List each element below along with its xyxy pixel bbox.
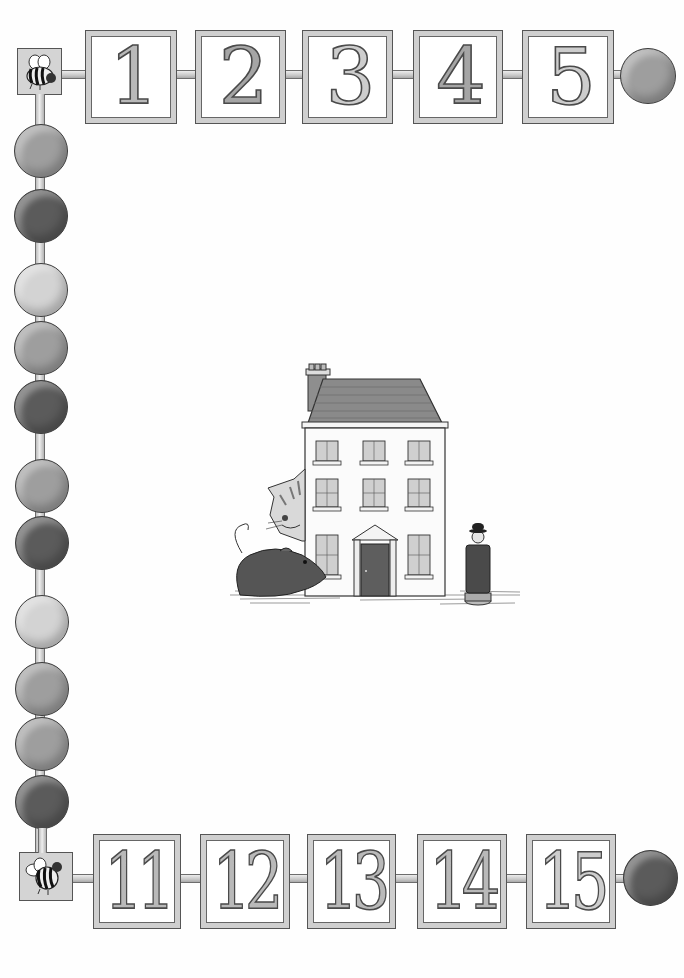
top-end-bead: [620, 48, 676, 104]
left-bead-7: [15, 516, 69, 570]
front-door: [352, 525, 398, 596]
number-tile-14: 14: [417, 834, 507, 929]
cat: [266, 469, 305, 541]
number-tile-13: 13: [307, 834, 396, 929]
left-bead-11: [15, 775, 69, 829]
left-bead-10: [15, 717, 69, 771]
numeral: 13: [319, 843, 384, 921]
number-tile-11: 11: [93, 834, 181, 929]
house-scene: [220, 355, 530, 620]
left-bead-4: [14, 321, 68, 375]
numeral: 3: [326, 38, 370, 116]
cornice: [302, 422, 448, 428]
numeral: 15: [539, 843, 604, 921]
numeral: 2: [219, 38, 263, 116]
left-bead-9: [15, 662, 69, 716]
roof: [308, 379, 442, 423]
numeral: 12: [213, 843, 278, 921]
bee-icon: [20, 853, 70, 899]
left-bead-5: [14, 380, 68, 434]
number-tile-15: 15: [526, 834, 616, 929]
numeral: 5: [546, 38, 590, 116]
number-tile-5: 5: [522, 30, 614, 124]
bottom-connector-rod: [38, 828, 47, 853]
left-bead-8: [15, 595, 69, 649]
illustration-page: 1 2 3 4 5 11: [0, 0, 684, 978]
man-figurine: [465, 523, 491, 605]
left-bead-2: [14, 189, 68, 243]
top-bee-box: [17, 48, 62, 95]
number-tile-3: 3: [302, 30, 393, 124]
numeral: 4: [436, 38, 480, 116]
number-tile-2: 2: [195, 30, 286, 124]
number-tile-4: 4: [413, 30, 503, 124]
bottom-end-bead: [623, 850, 678, 906]
bottom-bee-box: [19, 852, 73, 901]
numeral: 11: [105, 843, 170, 921]
numeral: 14: [430, 843, 495, 921]
left-bead-3: [14, 263, 68, 317]
number-tile-12: 12: [200, 834, 290, 929]
number-tile-1: 1: [85, 30, 177, 124]
left-bead-6: [15, 459, 69, 513]
left-bead-1: [14, 124, 68, 178]
bee-icon: [18, 49, 60, 93]
numeral: 1: [109, 38, 153, 116]
